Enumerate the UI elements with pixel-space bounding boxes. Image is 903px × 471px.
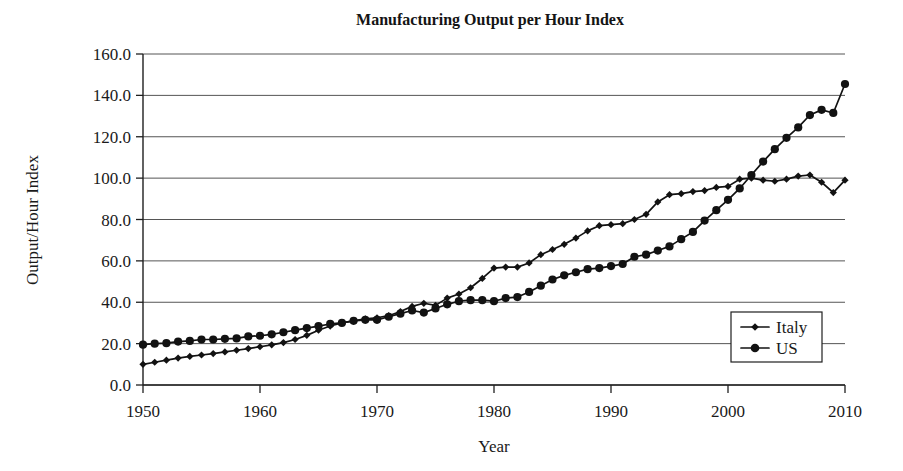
- data-point-marker: [712, 206, 720, 214]
- data-point-marker: [736, 184, 744, 192]
- data-point-marker: [244, 332, 252, 340]
- data-point-marker: [256, 332, 264, 340]
- data-point-marker: [548, 275, 556, 283]
- data-point-marker: [560, 271, 568, 279]
- data-point-marker: [314, 322, 322, 330]
- x-tick-label: 1960: [243, 402, 277, 421]
- data-point-marker: [186, 337, 194, 345]
- y-tick-label: 140.0: [93, 86, 131, 105]
- data-point-marker: [513, 293, 521, 301]
- data-point-marker: [689, 228, 697, 236]
- y-tick-label: 40.0: [101, 293, 131, 312]
- data-point-marker: [303, 324, 311, 332]
- data-point-marker: [665, 242, 673, 250]
- data-point-marker: [829, 109, 837, 117]
- data-point-marker: [385, 313, 393, 321]
- data-point-marker: [268, 330, 276, 338]
- data-point-marker: [326, 320, 334, 328]
- data-point-marker: [478, 296, 486, 304]
- data-point-marker: [642, 251, 650, 259]
- x-tick-label: 1980: [477, 402, 511, 421]
- x-tick-label: 2010: [828, 402, 862, 421]
- data-point-marker: [455, 297, 463, 305]
- data-point-marker: [431, 304, 439, 312]
- legend-label: US: [776, 339, 798, 358]
- data-point-marker: [139, 341, 147, 349]
- data-point-marker: [396, 310, 404, 318]
- data-point-marker: [584, 265, 592, 273]
- data-point-marker: [162, 339, 170, 347]
- data-point-marker: [490, 297, 498, 305]
- x-tick-label: 1970: [360, 402, 394, 421]
- x-tick-label: 2000: [711, 402, 745, 421]
- legend-label: Italy: [776, 318, 808, 337]
- data-point-marker: [794, 123, 802, 131]
- y-tick-label: 160.0: [93, 45, 131, 64]
- y-tick-label: 20.0: [101, 335, 131, 354]
- data-point-marker: [782, 134, 790, 142]
- data-point-marker: [747, 171, 755, 179]
- data-point-marker: [233, 334, 241, 342]
- line-chart: Manufacturing Output per Hour Index 0.02…: [0, 0, 903, 471]
- data-point-marker: [677, 235, 685, 243]
- data-point-marker: [279, 328, 287, 336]
- data-point-marker: [771, 145, 779, 153]
- y-tick-label: 120.0: [93, 128, 131, 147]
- data-point-marker: [724, 196, 732, 204]
- data-point-marker: [338, 319, 346, 327]
- data-point-marker: [572, 268, 580, 276]
- data-point-marker: [408, 306, 416, 314]
- x-tick-label: 1990: [594, 402, 628, 421]
- data-point-marker: [818, 106, 826, 114]
- legend-marker-circle-icon: [751, 344, 760, 353]
- data-point-marker: [420, 308, 428, 316]
- data-point-marker: [502, 294, 510, 302]
- data-point-marker: [221, 335, 229, 343]
- data-point-marker: [525, 288, 533, 296]
- data-point-marker: [630, 253, 638, 261]
- data-point-marker: [350, 317, 358, 325]
- data-point-marker: [759, 157, 767, 165]
- data-point-marker: [209, 335, 217, 343]
- data-point-marker: [607, 262, 615, 270]
- chart-background: [0, 0, 903, 471]
- data-point-marker: [841, 80, 849, 88]
- x-axis-label: Year: [478, 437, 510, 456]
- y-tick-label: 80.0: [101, 211, 131, 230]
- data-point-marker: [151, 340, 159, 348]
- data-point-marker: [197, 335, 205, 343]
- data-point-marker: [806, 111, 814, 119]
- data-point-marker: [361, 316, 369, 324]
- data-point-marker: [467, 296, 475, 304]
- y-axis-label: Output/Hour Index: [23, 155, 42, 285]
- y-tick-label: 100.0: [93, 169, 131, 188]
- chart-figure: Manufacturing Output per Hour Index 0.02…: [0, 0, 903, 471]
- x-tick-label: 1950: [126, 402, 160, 421]
- data-point-marker: [291, 326, 299, 334]
- y-tick-label: 60.0: [101, 252, 131, 271]
- data-point-marker: [654, 246, 662, 254]
- y-tick-label: 0.0: [110, 376, 131, 395]
- chart-legend[interactable]: ItalyUS: [731, 312, 822, 362]
- data-point-marker: [619, 260, 627, 268]
- data-point-marker: [373, 316, 381, 324]
- chart-title: Manufacturing Output per Hour Index: [356, 11, 624, 29]
- data-point-marker: [443, 300, 451, 308]
- data-point-marker: [701, 216, 709, 224]
- data-point-marker: [595, 264, 603, 272]
- data-point-marker: [537, 282, 545, 290]
- data-point-marker: [174, 337, 182, 345]
